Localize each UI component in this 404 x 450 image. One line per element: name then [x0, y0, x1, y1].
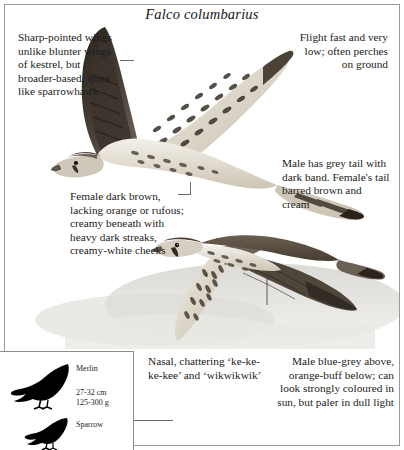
- leader-line-wing-shape: [120, 60, 134, 61]
- caption-tail-pattern: Male has grey tail with dark band. Femal…: [282, 157, 392, 211]
- caption-voice: Nasal, chattering ‘ke-ke-ke-kee’ and ‘wi…: [148, 355, 266, 382]
- caption-male-plumage: Male blue-grey above, orange-buff below;…: [272, 355, 394, 409]
- merlin-silhouette-icon: [8, 360, 78, 412]
- caption-flight-behaviour: Flight fast and very low; often perches …: [296, 31, 388, 72]
- sparrow-silhouette-icon: [22, 414, 74, 450]
- size-comparison-inset: Merlin 27-32 cm 125-300 g Sparrow: [0, 351, 134, 450]
- caption-female-plumage: Female dark brown, lacking orange or ruf…: [70, 190, 188, 258]
- leader-line-voice: [133, 420, 173, 421]
- inset-merlin-length: 27-32 cm: [76, 388, 106, 398]
- inset-merlin-label: Merlin: [76, 364, 98, 374]
- field-guide-plate: Falco columbarius: [0, 0, 404, 450]
- inset-sparrow-label: Sparrow: [76, 420, 103, 430]
- caption-wing-shape: Sharp-pointed wings unlike blunter wings…: [18, 31, 118, 99]
- inset-merlin-weight: 125-300 g: [76, 398, 109, 408]
